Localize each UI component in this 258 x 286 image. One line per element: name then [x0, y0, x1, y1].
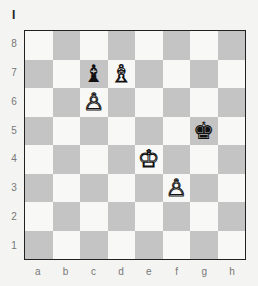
square-a7 — [25, 60, 53, 89]
file-label: g — [194, 266, 214, 277]
square-b5 — [53, 117, 81, 146]
square-e6 — [135, 88, 163, 117]
square-e3 — [135, 174, 163, 203]
square-e7 — [135, 60, 163, 89]
rank-label: 8 — [9, 38, 19, 49]
square-h1 — [218, 231, 246, 260]
square-d6 — [108, 88, 136, 117]
square-g4 — [190, 145, 218, 174]
square-a6 — [25, 88, 53, 117]
square-d3 — [108, 174, 136, 203]
square-e2 — [135, 202, 163, 231]
square-h4 — [218, 145, 246, 174]
square-a2 — [25, 202, 53, 231]
file-label: b — [56, 266, 76, 277]
file-label: f — [167, 266, 187, 277]
square-g1 — [190, 231, 218, 260]
square-h3 — [218, 174, 246, 203]
file-label: c — [83, 266, 103, 277]
rank-label: 1 — [9, 240, 19, 251]
square-d8 — [108, 31, 136, 60]
square-d5 — [108, 117, 136, 146]
square-e4: ♔ — [135, 145, 163, 174]
square-a3 — [25, 174, 53, 203]
square-g8 — [190, 31, 218, 60]
square-c3 — [80, 174, 108, 203]
rank-label: 4 — [9, 153, 19, 164]
square-g7 — [190, 60, 218, 89]
square-g5: ♚ — [190, 117, 218, 146]
square-c2 — [80, 202, 108, 231]
square-a5 — [25, 117, 53, 146]
file-label: h — [222, 266, 242, 277]
rank-label: 6 — [9, 96, 19, 107]
square-d4 — [108, 145, 136, 174]
square-e8 — [135, 31, 163, 60]
square-g2 — [190, 202, 218, 231]
file-label: e — [139, 266, 159, 277]
square-h7 — [218, 60, 246, 89]
square-c6: ♙ — [80, 88, 108, 117]
rank-label: 2 — [9, 211, 19, 222]
square-b6 — [53, 88, 81, 117]
square-f8 — [163, 31, 191, 60]
square-f6 — [163, 88, 191, 117]
square-b1 — [53, 231, 81, 260]
square-d1 — [108, 231, 136, 260]
square-g3 — [190, 174, 218, 203]
square-b2 — [53, 202, 81, 231]
square-f5 — [163, 117, 191, 146]
square-b7 — [53, 60, 81, 89]
square-b3 — [53, 174, 81, 203]
white-pawn-icon: ♙ — [165, 176, 187, 200]
square-g6 — [190, 88, 218, 117]
rank-label: 5 — [9, 125, 19, 136]
white-king-icon: ♔ — [138, 147, 160, 171]
square-h5 — [218, 117, 246, 146]
square-b8 — [53, 31, 81, 60]
white-pawn-icon: ♙ — [83, 90, 105, 114]
black-king-icon: ♚ — [193, 119, 215, 143]
square-c7: ♝ — [80, 60, 108, 89]
square-f3: ♙ — [163, 174, 191, 203]
square-d2 — [108, 202, 136, 231]
square-e5 — [135, 117, 163, 146]
square-a1 — [25, 231, 53, 260]
black-bishop-icon: ♝ — [83, 62, 105, 86]
rank-label: 3 — [9, 182, 19, 193]
square-a8 — [25, 31, 53, 60]
white-bishop-icon: ♗ — [110, 62, 132, 86]
square-d7: ♗ — [108, 60, 136, 89]
chess-board: ♝♗♙♚♔♙ — [24, 30, 246, 260]
file-label: a — [28, 266, 48, 277]
file-label: d — [111, 266, 131, 277]
square-c8 — [80, 31, 108, 60]
square-c1 — [80, 231, 108, 260]
square-h2 — [218, 202, 246, 231]
square-h6 — [218, 88, 246, 117]
square-f1 — [163, 231, 191, 260]
square-f7 — [163, 60, 191, 89]
rank-label: 7 — [9, 67, 19, 78]
square-f4 — [163, 145, 191, 174]
square-c4 — [80, 145, 108, 174]
diagram-number: I — [12, 8, 15, 22]
square-c5 — [80, 117, 108, 146]
square-b4 — [53, 145, 81, 174]
square-f2 — [163, 202, 191, 231]
square-h8 — [218, 31, 246, 60]
square-e1 — [135, 231, 163, 260]
square-a4 — [25, 145, 53, 174]
